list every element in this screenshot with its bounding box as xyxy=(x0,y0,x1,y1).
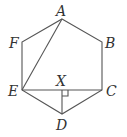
label-c: C xyxy=(106,83,117,99)
label-a: A xyxy=(54,3,66,19)
label-b: B xyxy=(104,35,115,51)
label-f: F xyxy=(8,35,20,51)
label-x: X xyxy=(55,73,67,89)
right-angle-marker xyxy=(62,90,68,96)
hexagon-diagram: A B C D E F X xyxy=(0,0,127,137)
label-d: D xyxy=(55,117,67,133)
label-e: E xyxy=(7,83,18,99)
